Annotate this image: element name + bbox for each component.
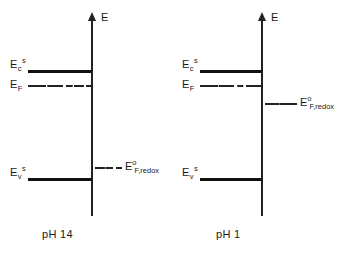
redox-level-label: EoF,redox: [125, 160, 161, 174]
ev-superscript: s: [194, 164, 198, 173]
panel-ph-14: E Ecs EF Evs EoF,redox pH 14: [0, 0, 177, 256]
ph-caption: pH 1: [216, 228, 240, 240]
energy-axis-line: [91, 20, 93, 216]
ev-superscript: s: [22, 164, 26, 173]
energy-axis-line: [261, 20, 263, 216]
redox-level-line: [265, 103, 297, 105]
ev-symbol: E: [182, 166, 189, 178]
conduction-band-edge-line: [28, 70, 92, 73]
conduction-band-edge-line: [200, 70, 262, 73]
ec-superscript: s: [194, 56, 198, 65]
ph-caption: pH 14: [42, 228, 73, 240]
ef-subscript: F: [190, 84, 195, 93]
fermi-level-line: [200, 85, 262, 87]
fermi-level-label: EF: [182, 78, 194, 92]
ef-symbol: E: [182, 78, 189, 90]
ef-subscript: F: [18, 84, 23, 93]
energy-axis-label: E: [271, 12, 279, 23]
energy-axis-label: E: [101, 12, 109, 23]
ef-symbol: E: [10, 78, 17, 90]
conduction-band-edge-label: Ecs: [10, 58, 25, 72]
redox-subscript: F,redox: [135, 166, 160, 175]
valence-band-edge-line: [28, 178, 92, 181]
band-diagram-figure: E Ecs EF Evs EoF,redox pH 14 E: [0, 0, 355, 256]
valence-band-edge-line: [200, 178, 262, 181]
ev-symbol: E: [10, 166, 17, 178]
redox-level-label: EoF,redox: [300, 96, 336, 110]
ec-superscript: s: [22, 56, 26, 65]
fermi-level-line: [28, 85, 92, 87]
ec-symbol: E: [182, 58, 189, 70]
fermi-level-label: EF: [10, 78, 22, 92]
panel-ph-1: E Ecs EF Evs EoF,redox pH 1: [178, 0, 355, 256]
valence-band-edge-label: Evs: [10, 166, 25, 180]
ec-symbol: E: [10, 58, 17, 70]
redox-subscript: F,redox: [310, 102, 335, 111]
valence-band-edge-label: Evs: [182, 166, 197, 180]
redox-level-line: [95, 167, 122, 169]
conduction-band-edge-label: Ecs: [182, 58, 197, 72]
